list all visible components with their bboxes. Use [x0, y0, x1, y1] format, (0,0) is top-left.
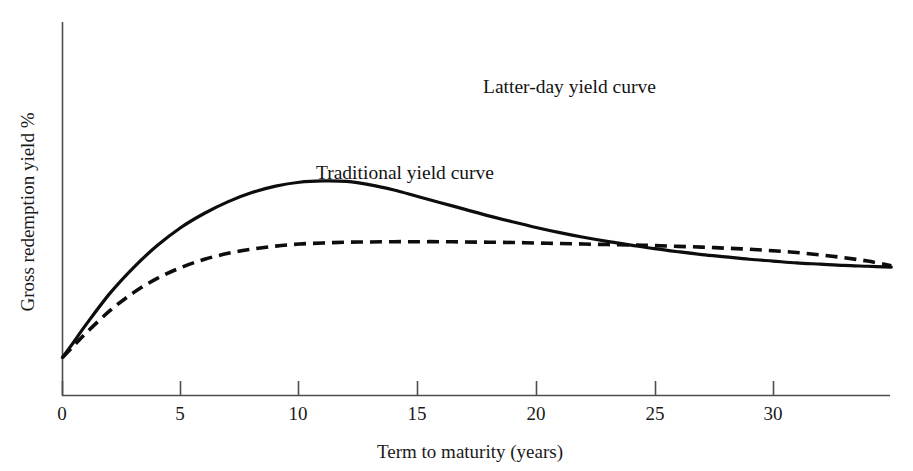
x-tick-label-0: 0 [57, 403, 67, 424]
x-tick-label-20: 20 [527, 403, 546, 424]
x-tick-label-30: 30 [764, 403, 783, 424]
x-tick-label-5: 5 [175, 403, 185, 424]
series-label-latter-day: Latter-day yield curve [483, 76, 656, 97]
series-line-traditional [63, 181, 892, 358]
x-axis-title: Term to maturity (years) [377, 441, 563, 463]
series-label-traditional: Traditional yield curve [316, 162, 494, 183]
x-tick-label-10: 10 [289, 403, 308, 424]
x-axis-ticks [63, 381, 774, 396]
x-tick-label-15: 15 [408, 403, 427, 424]
yield-curve-figure: 0 5 10 15 20 25 30 Term to maturity (yea… [0, 0, 913, 471]
chart-canvas: 0 5 10 15 20 25 30 Term to maturity (yea… [0, 0, 913, 471]
y-axis-title: Gross redemption yield % [17, 112, 38, 311]
x-axis-tick-labels: 0 5 10 15 20 25 30 [57, 403, 782, 424]
x-tick-label-25: 25 [646, 403, 665, 424]
